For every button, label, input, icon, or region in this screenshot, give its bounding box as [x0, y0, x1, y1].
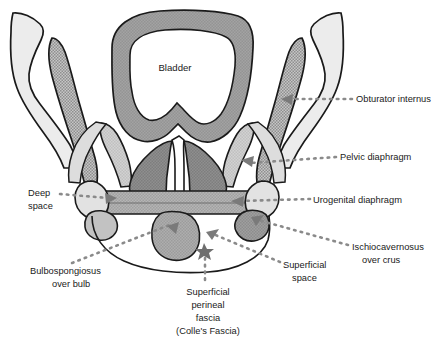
label-ischiocavernosus: Ischiocavernosus: [352, 242, 424, 252]
prostate-lobe-right: [184, 141, 227, 195]
diagram-canvas: Bladder: [0, 0, 446, 351]
anatomical-figure: Bladder: [0, 0, 446, 351]
label-bulbospongiosus-line2: over bulb: [52, 279, 90, 289]
crus-right: [235, 210, 269, 241]
bulb-group: [152, 211, 200, 260]
prostate-lobe-left: [130, 141, 173, 195]
label-bulbospongiosus: Bulbospongiosus: [30, 266, 101, 276]
label-superficial-perineal-fascia-line2: perineal: [191, 300, 224, 310]
label-pelvic-diaphragm: Pelvic diaphragm: [340, 152, 412, 162]
bulb-of-penis: [152, 211, 200, 260]
label-ischiocavernosus-line2: over crus: [362, 255, 401, 265]
bladder-label: Bladder: [158, 62, 192, 73]
leader-ischiocavernosus: [258, 220, 348, 245]
label-superficial-perineal-fascia-line4: (Colle's Fascia): [176, 326, 240, 336]
label-superficial-space-line2: space: [292, 273, 317, 283]
label-superficial-space: Superficial: [283, 260, 326, 270]
crus-left: [85, 211, 118, 241]
label-superficial-perineal-fascia: Superficial: [186, 287, 229, 297]
label-urogenital-diaphragm: Urogenital diaphragm: [313, 195, 402, 205]
label-obturator-internus: Obturator internus: [356, 94, 431, 104]
bladder-group: Bladder: [112, 10, 253, 142]
label-superficial-perineal-fascia-line3: fascia: [196, 313, 221, 323]
label-deep-space: Deep: [28, 188, 50, 198]
label-deep-space-line2: space: [28, 201, 53, 211]
